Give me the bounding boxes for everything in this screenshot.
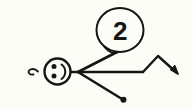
sketch-canvas: 2: [0, 0, 193, 110]
smiley-face-circle: [45, 59, 71, 85]
sketch-drawing: 2: [0, 0, 193, 110]
smiley-eye-upper: [52, 64, 57, 69]
paper-background: [0, 0, 193, 110]
callout-number-label: 2: [113, 16, 127, 46]
smiley-eye-lower: [52, 74, 57, 79]
lower-arm-end-blob: [121, 97, 127, 103]
